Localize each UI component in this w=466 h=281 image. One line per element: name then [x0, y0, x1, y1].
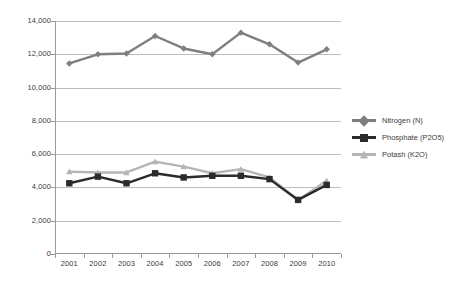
data-point-marker	[123, 180, 129, 186]
y-axis-tick-mark	[50, 254, 55, 255]
data-point-marker	[266, 176, 272, 182]
y-axis-tick-mark	[50, 21, 55, 22]
legend-swatch-phosphate-icon	[352, 132, 376, 143]
data-point-marker	[324, 182, 330, 188]
y-axis-tick-mark	[50, 187, 55, 188]
legend-label-phosphate: Phosphate (P2O5)	[382, 134, 444, 142]
y-axis-tick-mark	[50, 88, 55, 89]
data-point-marker	[66, 180, 72, 186]
y-axis-tick-mark	[50, 221, 55, 222]
data-point-marker	[95, 51, 101, 57]
legend-label-potash: Potash (K2O)	[382, 151, 427, 159]
series-line	[69, 33, 326, 64]
data-point-marker	[152, 170, 158, 176]
legend-swatch-nitrogen-icon	[352, 115, 376, 126]
legend-swatch-potash-icon	[352, 149, 376, 160]
series-line	[69, 173, 326, 200]
data-point-marker	[209, 173, 215, 179]
y-axis-tick-mark	[50, 121, 55, 122]
series-nitrogen-n	[66, 29, 330, 66]
y-axis-tick-mark	[50, 54, 55, 55]
series-phosphate-p2o5	[66, 170, 330, 203]
legend-label-nitrogen: Nitrogen (N)	[382, 117, 423, 125]
data-point-marker	[295, 197, 301, 203]
legend-item-phosphate[interactable]: Phosphate (P2O5)	[352, 130, 464, 145]
series-potash-k2o	[66, 158, 330, 202]
line-chart: 02,0004,0006,0008,00010,00012,00014,000 …	[0, 0, 466, 281]
data-point-marker	[66, 60, 72, 66]
series-line	[69, 162, 326, 200]
chart-legend: Nitrogen (N) Phosphate (P2O5) Potash (K2…	[352, 113, 464, 164]
data-point-marker	[238, 173, 244, 179]
legend-item-nitrogen[interactable]: Nitrogen (N)	[352, 113, 464, 128]
data-point-marker	[181, 174, 187, 180]
y-axis-tick-mark	[50, 154, 55, 155]
legend-item-potash[interactable]: Potash (K2O)	[352, 147, 464, 162]
data-point-marker	[95, 173, 101, 179]
